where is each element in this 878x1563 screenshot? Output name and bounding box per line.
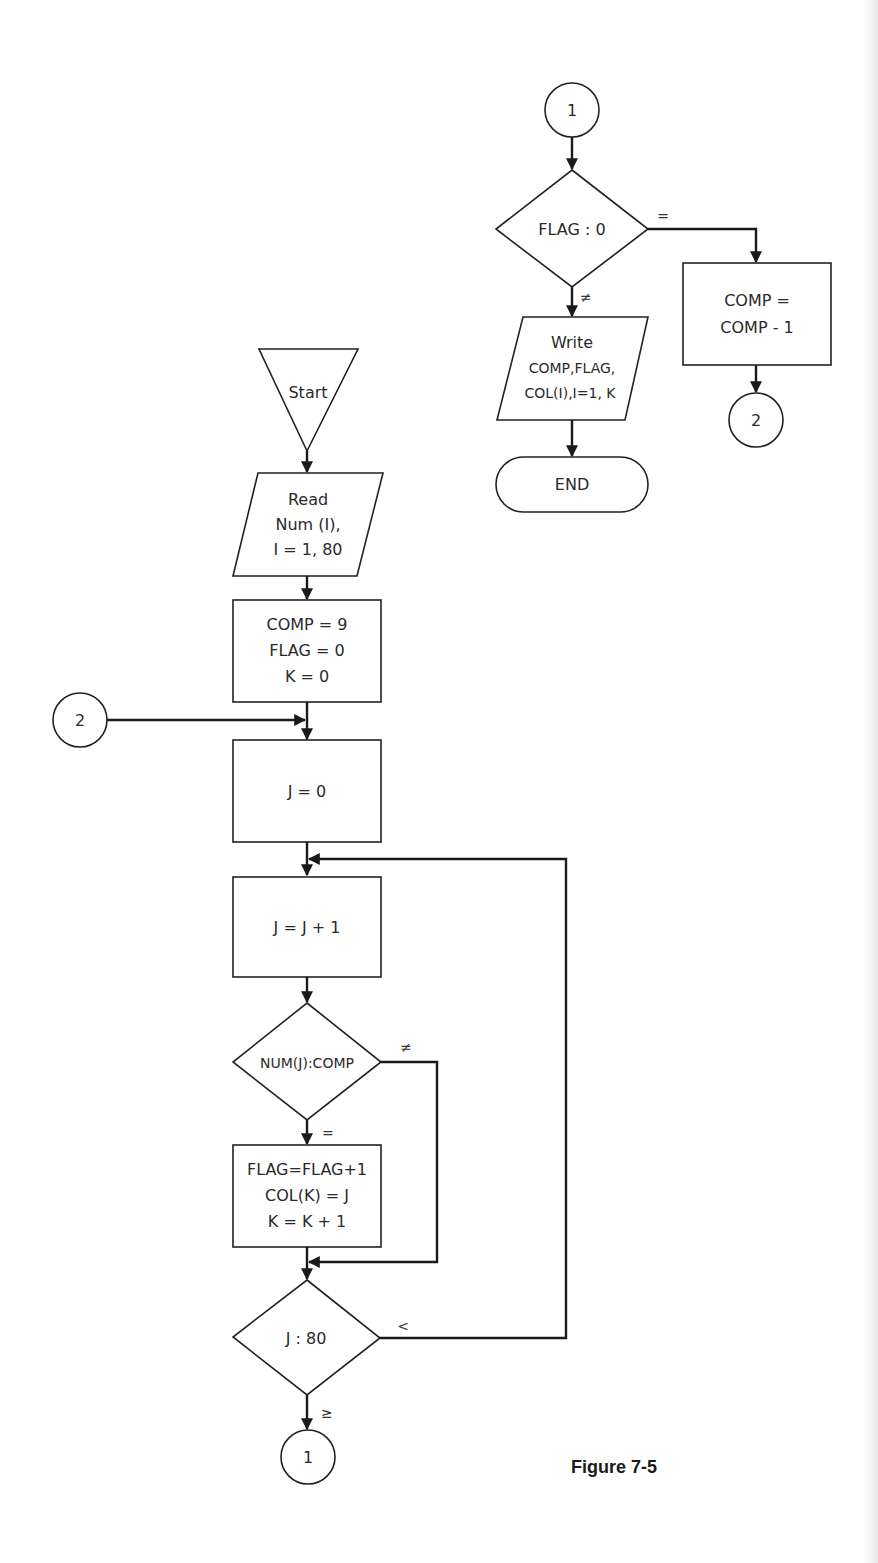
connector-2-entry-label: 2: [75, 711, 85, 730]
connector-2-entry: 2: [53, 693, 107, 747]
read-line-1: Read: [288, 490, 328, 509]
connector-2-exit-label: 2: [751, 411, 761, 430]
decrement-comp-line-1: COMP =: [724, 291, 790, 310]
connector-1-exit: 1: [281, 1430, 335, 1484]
init-line-2: FLAG = 0: [269, 641, 344, 660]
write-line-3: COL(I),I=1, K: [525, 385, 617, 401]
test-flag-label: FLAG : 0: [538, 220, 605, 239]
flowchart: Start Read Num (I), I = 1, 80 COMP = 9 F…: [0, 0, 878, 1563]
end-terminator-node: END: [496, 457, 648, 512]
record-line-2: COL(K) = J: [265, 1186, 349, 1205]
write-line-1: Write: [551, 333, 593, 352]
read-line-3: I = 1, 80: [273, 540, 342, 559]
connector-1-exit-label: 1: [303, 1448, 313, 1467]
decrement-comp-process-node: COMP = COMP - 1: [683, 263, 831, 365]
test-num-decision-node: NUM(J):COMP: [233, 1003, 381, 1120]
set-j-label: J = 0: [287, 782, 326, 801]
edge-testflag-eq: [648, 229, 756, 262]
write-output-node: Write COMP,FLAG, COL(I),I=1, K: [497, 317, 648, 420]
decrement-comp-line-2: COMP - 1: [720, 318, 793, 337]
read-input-node: Read Num (I), I = 1, 80: [233, 473, 383, 576]
end-label: END: [555, 475, 589, 494]
edge-label-flag-eq: =: [657, 208, 669, 224]
edge-label-eq: =: [322, 1125, 334, 1141]
init-line-3: K = 0: [285, 667, 329, 686]
increment-j-process-node: J = J + 1: [233, 877, 381, 977]
init-process-node: COMP = 9 FLAG = 0 K = 0: [233, 600, 381, 702]
test-j-decision-node: J : 80: [233, 1280, 380, 1395]
connector-1-entry: 1: [545, 83, 599, 137]
connector-1-entry-label: 1: [567, 101, 577, 120]
connector-2-exit: 2: [729, 393, 783, 447]
edge-label-ne: ≠: [400, 1039, 412, 1055]
test-j-label: J : 80: [285, 1329, 327, 1348]
init-line-1: COMP = 9: [267, 615, 348, 634]
set-j-process-node: J = 0: [233, 740, 381, 842]
read-line-2: Num (I),: [275, 515, 340, 534]
start-label: Start: [288, 383, 327, 402]
record-line-1: FLAG=FLAG+1: [247, 1160, 367, 1179]
edge-label-lt: <: [397, 1318, 409, 1334]
test-flag-decision-node: FLAG : 0: [496, 170, 648, 287]
increment-j-label: J = J + 1: [273, 918, 341, 937]
write-line-2: COMP,FLAG,: [529, 360, 616, 376]
start-node: Start: [259, 349, 358, 451]
edge-label-ge: ≥: [321, 1405, 333, 1421]
figure-caption: Figure 7-5: [571, 1457, 657, 1477]
record-line-3: K = K + 1: [268, 1212, 346, 1231]
record-match-process-node: FLAG=FLAG+1 COL(K) = J K = K + 1: [233, 1145, 381, 1247]
test-num-label: NUM(J):COMP: [260, 1055, 354, 1071]
edge-label-flag-ne: ≠: [580, 289, 592, 305]
